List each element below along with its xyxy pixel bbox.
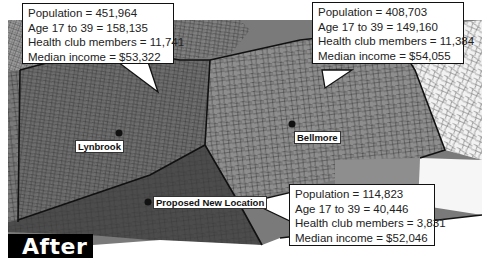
bellmore-label: Bellmore [294, 131, 341, 144]
proposed-population: Population = 114,823 [295, 187, 429, 202]
proposed-stats-callout: Population = 114,823 Age 17 to 39 = 40,4… [289, 184, 435, 246]
proposed-age: Age 17 to 39 = 40,446 [295, 202, 429, 217]
bellmore-population: Population = 408,703 [318, 5, 458, 20]
proposed-health-club: Health club members = 3,831 [295, 216, 429, 231]
bellmore-age: Age 17 to 39 = 149,160 [318, 20, 458, 35]
lynbrook-label: Lynbrook [75, 140, 124, 153]
lynbrook-health-club: Health club members = 11,741 [28, 35, 168, 50]
lynbrook-population: Population = 451,964 [28, 6, 168, 21]
bellmore-marker [289, 121, 296, 128]
bellmore-income: Median income = $54,055 [318, 49, 458, 64]
lynbrook-stats-callout: Population = 451,964 Age 17 to 39 = 158,… [22, 3, 174, 64]
bellmore-health-club: Health club members = 11,384 [318, 34, 458, 49]
lynbrook-marker [116, 130, 123, 137]
after-badge: After [8, 234, 93, 258]
bellmore-stats-callout: Population = 408,703 Age 17 to 39 = 149,… [312, 2, 464, 64]
proposed-location-label: Proposed New Location [153, 196, 267, 209]
proposed-location-marker [145, 199, 152, 206]
lynbrook-age: Age 17 to 39 = 158,135 [28, 21, 168, 36]
lynbrook-income: Median income = $53,322 [28, 50, 168, 65]
proposed-income: Median income = $52,046 [295, 231, 429, 246]
